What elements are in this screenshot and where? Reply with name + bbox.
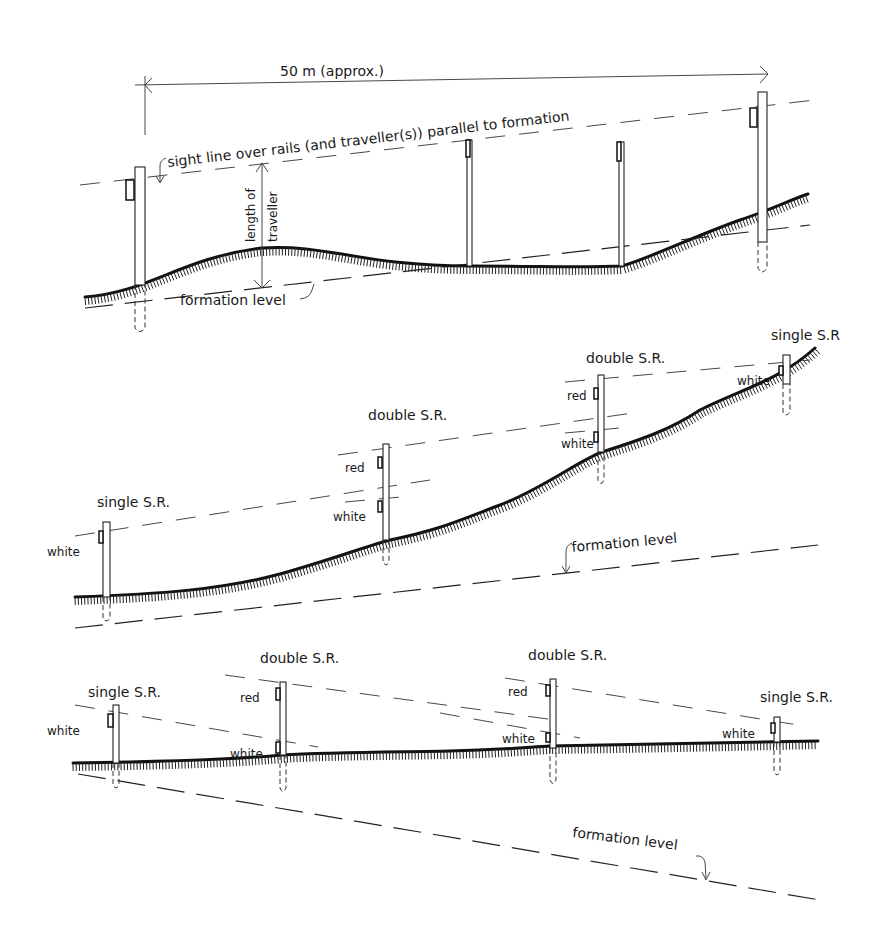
ground-profile: [75, 348, 815, 597]
panel-middle: formation level single S.R. white double…: [47, 327, 840, 628]
ground-hatch-tick: [186, 267, 189, 275]
traveller-1: [466, 140, 472, 266]
ground-hatch-tick: [660, 431, 663, 438]
ground-hatch-tick: [574, 466, 578, 473]
ground-hatch-tick: [505, 749, 506, 757]
board-white: [108, 714, 113, 727]
ground-hatch-tick: [324, 561, 326, 569]
sight-rail-double-3: double S.R. red white: [502, 647, 607, 784]
ground-hatch-tick: [524, 494, 528, 501]
ground-hatch-tick: [588, 458, 592, 465]
rail-type-label: double S.R.: [528, 647, 607, 663]
ground-hatch-tick: [746, 389, 749, 396]
sight-line-label: sight line over rails (and traveller(s))…: [167, 108, 571, 170]
ground-hatch-tick: [654, 434, 657, 441]
board-label-white: white: [47, 545, 80, 559]
ground-hatch-tick: [155, 593, 156, 601]
ground-hatch-tick: [654, 255, 657, 263]
ground-hatch-tick: [669, 428, 672, 435]
post: [383, 444, 389, 540]
ground-hatch-tick: [521, 496, 525, 503]
ground-hatch-tick: [415, 264, 416, 272]
ground-hatch-tick: [569, 469, 573, 476]
ground-hatch-tick: [726, 398, 729, 405]
ground-hatch-tick: [524, 748, 525, 756]
ground-hatch-tick: [802, 359, 807, 365]
ground-hatch-tick: [600, 453, 603, 460]
ground-hatch-tick: [755, 215, 758, 223]
board-white: [378, 501, 382, 512]
ground-hatch-tick: [694, 414, 698, 421]
traveller-staff: [467, 140, 472, 266]
ground-hatch-tick: [519, 497, 522, 504]
board-label-red: red: [567, 389, 587, 403]
ground-hatch-tick: [278, 755, 279, 763]
ground-hatch-tick: [412, 264, 413, 272]
sight-rail-single-4: single S.R white: [737, 327, 840, 415]
sight-line-red-1: [225, 675, 555, 720]
ground-hatch-tick: [508, 749, 509, 757]
sight-rail-single-4: single S.R. white: [722, 689, 833, 775]
ground-hatch-tick: [518, 748, 519, 756]
formation-label: formation level: [571, 530, 678, 555]
ground-hatch-tick: [738, 393, 741, 400]
formation-line: [75, 545, 818, 628]
ground-hatch-tick: [566, 471, 570, 478]
panel-top: 50 m (approx.) sight line over rails (an…: [80, 63, 815, 332]
sight-rail-post-left: [126, 167, 145, 332]
sight-line-white-2: [565, 428, 620, 433]
ground-hatch-tick: [660, 252, 663, 259]
ground-hatch-tick: [486, 510, 489, 518]
ground-hatch-tick: [133, 595, 134, 603]
ground-hatch-tick: [530, 747, 531, 755]
ground-hatch-tick: [636, 441, 639, 449]
ground-hatch-tick: [459, 521, 462, 529]
ground-hatch-tick: [456, 522, 459, 530]
ground-hatch-tick: [465, 519, 468, 526]
ground-hatch-tick: [552, 479, 556, 486]
board-label-white: white: [737, 374, 770, 388]
ground-hatch-tick: [703, 409, 707, 416]
ground-hatch-tick: [735, 394, 738, 401]
ground-hatch-tick: [483, 512, 486, 520]
ground-hatch-tick: [504, 504, 507, 512]
ground-hatch-tick: [680, 244, 683, 251]
ground-hatch-tick: [717, 402, 720, 409]
ground-hatch-tick: [772, 377, 776, 384]
ground-hatch-tick: [695, 238, 698, 245]
post: [598, 375, 604, 452]
board-white: [779, 366, 783, 375]
ground-hatch-tick: [794, 199, 797, 206]
ground-profile: [85, 194, 808, 297]
ground-hatch-tick: [453, 523, 456, 531]
ground-hatch-tick: [630, 264, 633, 272]
ground-hatch-tick: [489, 509, 492, 517]
ground-hatch-tick: [633, 442, 636, 450]
ground-hatch-tick: [708, 406, 711, 413]
ground-hatch-tick: [544, 484, 548, 491]
ground-hatch-tick: [642, 259, 645, 267]
ground-hatch-tick: [85, 297, 86, 305]
ground-hatch-tick: [477, 514, 480, 521]
ground-hatch-tick: [558, 476, 562, 483]
board-label-white: white: [722, 727, 755, 741]
ground-hatch-tick: [657, 433, 660, 440]
traveller-label-1: length of: [244, 188, 258, 242]
ground-hatch-tick: [743, 219, 746, 227]
ground-hatch-tick: [797, 198, 800, 206]
ground-hatch-tick: [577, 465, 581, 472]
ground-hatch-tick: [129, 595, 130, 603]
board-white: [594, 432, 598, 442]
ground-hatch-tick: [174, 592, 175, 600]
ground-hatch-tick: [546, 746, 547, 754]
board-white: [99, 531, 103, 543]
ground-hatch-tick: [480, 513, 483, 521]
formation-line: [78, 774, 820, 900]
ground-hatch-tick: [782, 204, 785, 211]
ground-hatch-tick: [773, 208, 776, 216]
board-label-red: red: [508, 685, 528, 699]
ground-hatch-tick: [792, 366, 796, 373]
ground-hatch-tick: [177, 271, 180, 279]
ground-hatch-tick: [572, 468, 576, 475]
ground-hatch-tick: [180, 269, 183, 276]
